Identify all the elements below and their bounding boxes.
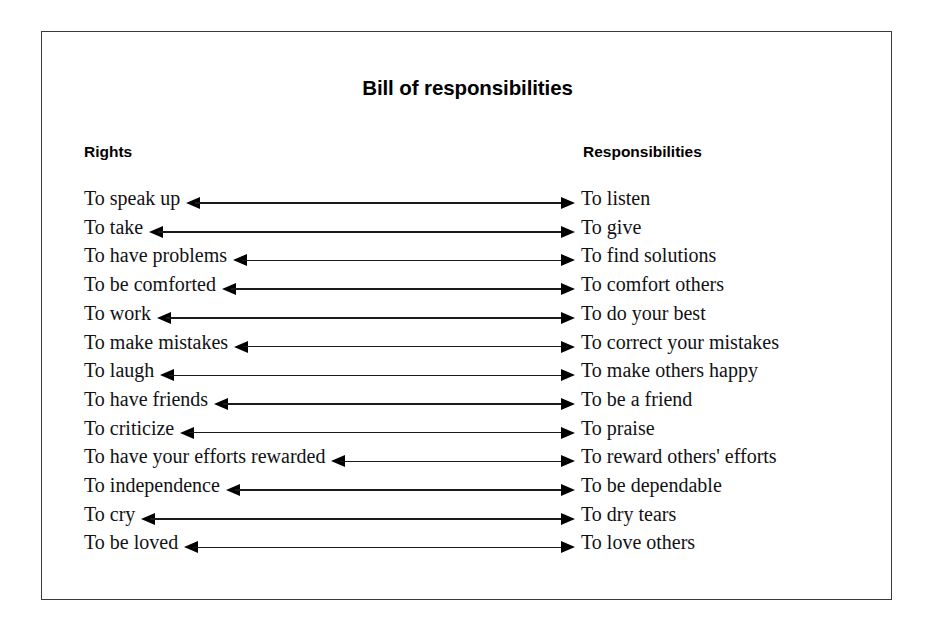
arrow-shaft [235,489,565,491]
responsibility-item-label: To love others [581,530,695,554]
right-item-label: To speak up [84,186,180,210]
pair-row: To independenceTo be dependable [42,473,893,502]
pair-row: To have problemsTo find solutions [42,243,893,272]
responsibility-item-label: To reward others' efforts [581,444,777,468]
arrow-shaft [195,202,565,204]
arrowhead-right-icon [561,484,575,496]
double-arrow-icon [331,455,575,467]
arrow-shaft [243,346,565,348]
responsibility-item-label: To correct your mistakes [581,330,779,354]
arrowhead-right-icon [561,283,575,295]
responsibility-item-label: To do your best [581,301,706,325]
pair-rows: To speak upTo listenTo takeTo giveTo hav… [42,32,893,601]
right-item-label: To have your efforts rewarded [84,444,325,468]
right-item-label: To have problems [84,243,227,267]
right-item-label: To independence [84,473,220,497]
right-item-label: To be comforted [84,272,216,296]
pair-row: To have your efforts rewardedTo reward o… [42,444,893,473]
double-arrow-icon [180,427,575,439]
double-arrow-icon [141,513,575,525]
arrowhead-right-icon [561,341,575,353]
pair-row: To be lovedTo love others [42,530,893,559]
arrowhead-right-icon [561,197,575,209]
responsibility-item-label: To dry tears [581,502,676,526]
arrow-shaft [166,317,565,319]
arrowhead-right-icon [561,226,575,238]
right-item-label: To work [84,301,151,325]
pair-row: To workTo do your best [42,301,893,330]
responsibility-item-label: To be a friend [581,387,692,411]
arrow-shaft [189,432,565,434]
double-arrow-icon [184,541,575,553]
double-arrow-icon [160,369,575,381]
double-arrow-icon [226,484,575,496]
right-item-label: To make mistakes [84,330,228,354]
arrow-shaft [158,231,565,233]
responsibility-item-label: To give [581,215,641,239]
right-item-label: To criticize [84,416,174,440]
arrow-shaft [231,288,565,290]
pair-row: To takeTo give [42,215,893,244]
responsibility-item-label: To comfort others [581,272,724,296]
right-item-label: To be loved [84,530,178,554]
arrowhead-right-icon [561,427,575,439]
pair-row: To laughTo make others happy [42,358,893,387]
arrow-shaft [193,547,565,549]
responsibility-item-label: To make others happy [581,358,758,382]
double-arrow-icon [214,398,575,410]
arrowhead-right-icon [561,398,575,410]
responsibility-item-label: To be dependable [581,473,722,497]
double-arrow-icon [149,226,575,238]
right-item-label: To cry [84,502,135,526]
double-arrow-icon [233,254,575,266]
arrow-shaft [169,375,565,377]
double-arrow-icon [157,312,575,324]
responsibility-item-label: To praise [581,416,655,440]
double-arrow-icon [234,341,575,353]
right-item-label: To laugh [84,358,154,382]
arrowhead-right-icon [561,513,575,525]
arrowhead-right-icon [561,312,575,324]
arrowhead-right-icon [561,254,575,266]
arrowhead-right-icon [561,369,575,381]
bill-of-responsibilities-figure: Bill of responsibilities Rights Responsi… [41,31,892,600]
double-arrow-icon [186,197,575,209]
pair-row: To be comfortedTo comfort others [42,272,893,301]
pair-row: To criticizeTo praise [42,416,893,445]
arrow-shaft [223,403,565,405]
responsibility-item-label: To listen [581,186,650,210]
pair-row: To have friendsTo be a friend [42,387,893,416]
responsibility-item-label: To find solutions [581,243,716,267]
right-item-label: To take [84,215,143,239]
double-arrow-icon [222,283,575,295]
pair-row: To speak upTo listen [42,186,893,215]
arrowhead-right-icon [561,541,575,553]
arrow-shaft [340,461,565,463]
arrow-shaft [242,260,565,262]
right-item-label: To have friends [84,387,208,411]
arrowhead-right-icon [561,455,575,467]
arrow-shaft [150,518,565,520]
pair-row: To cryTo dry tears [42,502,893,531]
pair-row: To make mistakesTo correct your mistakes [42,330,893,359]
